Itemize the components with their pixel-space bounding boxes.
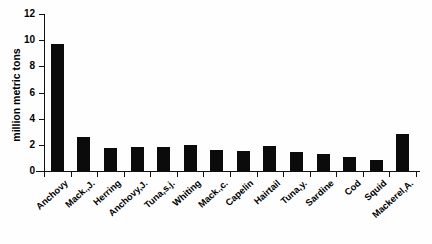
x-tick-label: Capelin [224,178,256,208]
y-tick-label: 0 [13,166,35,176]
bar [290,152,303,171]
y-tick-label: 6 [13,88,35,98]
bar [396,134,409,171]
bar [51,44,64,171]
bar [210,150,223,171]
y-tick-label: 8 [13,61,35,71]
x-tick-mark [150,172,151,177]
x-tick-label: Anchovy [34,178,70,212]
x-tick-mark [124,172,125,177]
x-tick-mark [230,172,231,177]
x-tick-mark [336,172,337,177]
x-tick-label: Sardine [304,178,336,208]
x-tick-mark [283,172,284,177]
bar [263,146,276,171]
bar-chart-figure: million metric tons 024681012 AnchovyMac… [0,0,432,244]
x-tick-mark [203,172,204,177]
x-tick-mark [257,172,258,177]
x-tick-mark [71,172,72,177]
bar [131,147,144,171]
bar [237,151,250,171]
bar [370,160,383,171]
x-tick-mark [310,172,311,177]
y-tick-label: 4 [13,114,35,124]
y-tick-label: 12 [13,9,35,19]
x-tick-mark [177,172,178,177]
bar [317,154,330,171]
y-tick-label: 2 [13,140,35,150]
bar [184,145,197,171]
x-tick-mark [363,172,364,177]
bar [104,148,117,171]
bar [343,157,356,171]
x-tick-mark [44,172,45,177]
x-tick-mark [389,172,390,177]
x-tick-label: Hairtail [253,178,283,207]
x-tick-mark [97,172,98,177]
x-tick-mark [416,172,417,177]
bar-series [44,14,416,171]
bar [77,137,90,171]
bar [157,147,170,171]
y-tick-label: 10 [13,35,35,45]
x-tick-label: Cod [343,178,363,198]
